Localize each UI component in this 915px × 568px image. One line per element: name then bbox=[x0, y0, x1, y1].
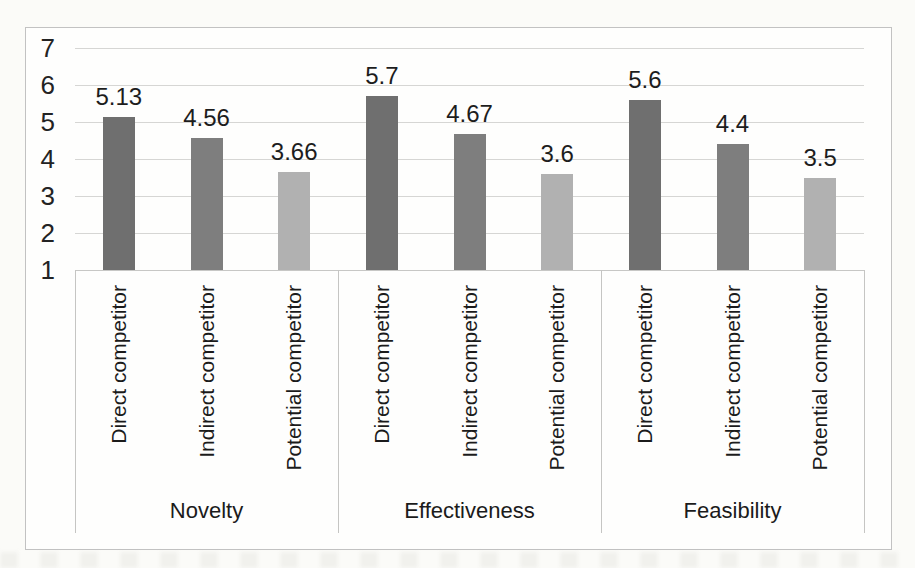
category-label-direct-competitor: Direct competitor bbox=[106, 285, 132, 490]
bar-value-label: 4.56 bbox=[162, 105, 252, 131]
category-label-potential-competitor: Potential competitor bbox=[807, 285, 833, 490]
category-divider bbox=[338, 270, 339, 533]
y-axis-tick-label: 6 bbox=[15, 70, 55, 100]
bar-value-label: 4.4 bbox=[688, 111, 778, 137]
category-label-indirect-competitor: Indirect competitor bbox=[457, 285, 483, 490]
gridline bbox=[75, 85, 864, 86]
group-label-feasibility: Feasibility bbox=[601, 498, 864, 524]
bar-indirect-competitor bbox=[454, 134, 486, 270]
bar-value-label: 5.13 bbox=[74, 84, 164, 110]
gridline bbox=[75, 48, 864, 49]
category-label-indirect-competitor: Indirect competitor bbox=[720, 285, 746, 490]
bar-indirect-competitor bbox=[717, 144, 749, 270]
scan-bleed-texture bbox=[0, 552, 915, 568]
bar-potential-competitor bbox=[804, 178, 836, 271]
bar-direct-competitor bbox=[366, 96, 398, 270]
y-axis-tick-label: 4 bbox=[15, 144, 55, 174]
category-label-indirect-competitor: Indirect competitor bbox=[194, 285, 220, 490]
bar-indirect-competitor bbox=[191, 138, 223, 270]
bar-potential-competitor bbox=[278, 172, 310, 270]
group-label-effectiveness: Effectiveness bbox=[338, 498, 601, 524]
y-axis-tick-label: 2 bbox=[15, 218, 55, 248]
bar-chart: 76543215.13Direct competitor4.56Indirect… bbox=[0, 0, 915, 568]
category-label-direct-competitor: Direct competitor bbox=[632, 285, 658, 490]
group-label-novelty: Novelty bbox=[75, 498, 338, 524]
category-label-potential-competitor: Potential competitor bbox=[281, 285, 307, 490]
y-axis-tick-label: 3 bbox=[15, 181, 55, 211]
bar-value-label: 3.6 bbox=[512, 141, 602, 167]
category-label-potential-competitor: Potential competitor bbox=[544, 285, 570, 490]
category-divider bbox=[864, 270, 865, 533]
bar-value-label: 5.7 bbox=[337, 63, 427, 89]
bar-value-label: 3.5 bbox=[775, 145, 865, 171]
y-axis-tick-label: 1 bbox=[15, 255, 55, 285]
bar-direct-competitor bbox=[629, 100, 661, 270]
category-label-direct-competitor: Direct competitor bbox=[369, 285, 395, 490]
category-divider bbox=[75, 270, 76, 533]
bar-value-label: 3.66 bbox=[249, 139, 339, 165]
bar-value-label: 4.67 bbox=[425, 101, 515, 127]
x-axis-baseline bbox=[75, 270, 864, 271]
scanned-page: 76543215.13Direct competitor4.56Indirect… bbox=[0, 0, 915, 568]
bar-potential-competitor bbox=[541, 174, 573, 270]
bar-direct-competitor bbox=[103, 117, 135, 270]
y-axis-tick-label: 7 bbox=[15, 33, 55, 63]
bar-value-label: 5.6 bbox=[600, 67, 690, 93]
y-axis-tick-label: 5 bbox=[15, 107, 55, 137]
category-divider bbox=[601, 270, 602, 533]
